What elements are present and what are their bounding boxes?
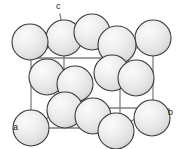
atom-spheres — [12, 14, 171, 149]
axis-label-c: c — [56, 2, 61, 11]
atom-corner-front-bottom-mid — [98, 113, 134, 149]
atom-face-right — [118, 60, 154, 96]
atom-corner-back-top-right — [135, 20, 171, 56]
axis-label-b: b — [168, 108, 173, 117]
axis-label-a: a — [13, 123, 18, 132]
unit-cell-drawing — [0, 0, 187, 149]
atom-corner-front-bottom-left — [13, 110, 49, 146]
crystal-structure-figure: a b c — [0, 0, 187, 149]
atom-corner-front-top-left — [12, 24, 48, 60]
atom-corner-back-bottom-right — [134, 100, 170, 136]
